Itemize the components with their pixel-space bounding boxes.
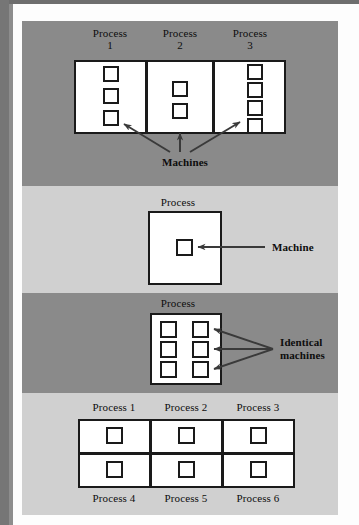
panel-4-top-label-1: Process 1 (78, 401, 150, 413)
panel-3-process-label: Process (139, 297, 217, 309)
machine (103, 66, 119, 82)
machine (172, 81, 188, 97)
machine (178, 427, 195, 444)
machine (250, 461, 267, 478)
machine (178, 461, 195, 478)
scan-edge-left (0, 0, 9, 525)
panel-2-callout-machine: Machine (272, 241, 352, 253)
machine (103, 88, 119, 104)
machine (103, 110, 119, 126)
machine (250, 427, 267, 444)
panel-1-process-3-label: Process 3 (214, 27, 286, 51)
panel-1-process-2-label: Process 2 (147, 27, 213, 51)
figure-page: Process 1 Process 2 Process 3 Machines P… (0, 0, 359, 525)
machine (247, 100, 263, 116)
machine (176, 239, 193, 256)
panel-4-top-label-3: Process 3 (222, 401, 294, 413)
machine (192, 361, 209, 378)
panel-2-process-label: Process (139, 196, 217, 208)
panel-4-top-label-2: Process 2 (150, 401, 222, 413)
machine (106, 427, 123, 444)
machine (247, 64, 263, 80)
machine (172, 103, 188, 119)
machine (247, 82, 263, 98)
machine (106, 461, 123, 478)
panel-4-bottom-label-3: Process 6 (222, 492, 294, 504)
machine (160, 341, 177, 358)
machine (160, 361, 177, 378)
scan-edge-left-inner (9, 4, 13, 525)
machine (192, 321, 209, 338)
panel-3-callout-identical-machines: Identical machines (280, 336, 354, 362)
machine (160, 321, 177, 338)
panel-1-callout-machines: Machines (140, 156, 230, 168)
panel-4-bottom-label-1: Process 4 (78, 492, 150, 504)
panel-4-bottom-label-2: Process 5 (150, 492, 222, 504)
panel-1-process-1-label: Process 1 (74, 27, 146, 51)
machine (192, 341, 209, 358)
panel-1-process-2-box (146, 60, 214, 134)
machine (247, 118, 263, 134)
